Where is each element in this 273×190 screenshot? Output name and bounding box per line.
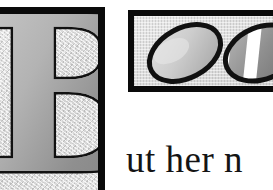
illuminated-initial-panel: B B — [0, 7, 105, 190]
page-canvas: B B — [0, 0, 273, 190]
drop-cap-letter-outline: B — [0, 7, 105, 190]
text-line: ut her n — [126, 140, 243, 180]
egg-illustration-panel — [128, 10, 273, 92]
striped-egg — [216, 19, 273, 87]
